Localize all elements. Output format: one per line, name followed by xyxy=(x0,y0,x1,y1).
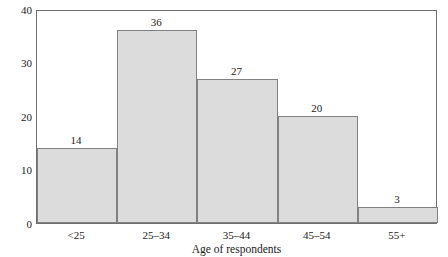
bar-value-label: 14 xyxy=(36,135,116,146)
bar xyxy=(37,148,117,223)
y-axis-tick-label: 20 xyxy=(10,112,32,123)
x-axis-tick-label: 35–44 xyxy=(196,229,276,241)
x-axis-tick-label: 45–54 xyxy=(277,229,357,241)
bar xyxy=(278,116,358,223)
x-axis-tick-labels: <2525–3435–4445–5455+ xyxy=(36,229,437,243)
y-axis-tick-label: 0 xyxy=(10,219,32,230)
bar-value-label: 36 xyxy=(116,17,196,28)
y-axis-tick-label: 40 xyxy=(10,5,32,16)
histogram-figure: Number of respondents 010203040 <2525–34… xyxy=(0,0,448,257)
y-axis-tick-label: 10 xyxy=(10,165,32,176)
y-axis-tick-labels: 010203040 xyxy=(8,0,32,257)
y-axis-tick-label: 30 xyxy=(10,58,32,69)
bars-layer xyxy=(37,11,436,223)
bar xyxy=(197,79,277,223)
plot-area xyxy=(36,10,437,224)
bar xyxy=(358,207,438,223)
x-axis-tick-label: <25 xyxy=(36,229,116,241)
bar xyxy=(117,30,197,223)
bar-value-label: 27 xyxy=(196,66,276,77)
bar-value-label: 20 xyxy=(277,103,357,114)
x-axis-title: Age of respondents xyxy=(36,243,437,256)
bar-value-label: 3 xyxy=(357,194,437,205)
x-axis-tick-label: 55+ xyxy=(357,229,437,241)
x-axis-tick-label: 25–34 xyxy=(116,229,196,241)
